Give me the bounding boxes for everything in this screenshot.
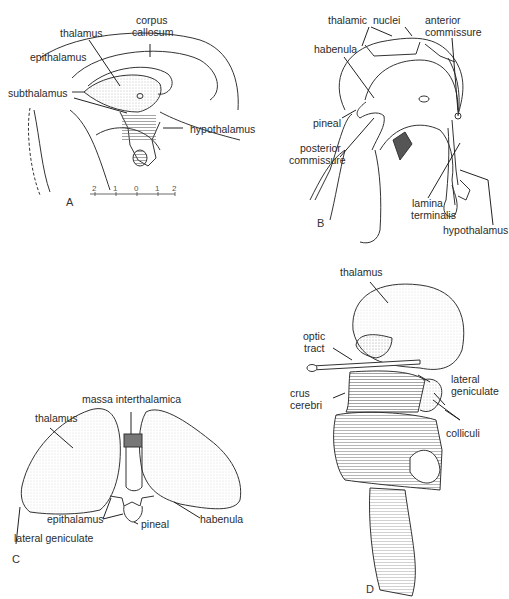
label-lamina-terminalis-line2: terminalis <box>411 209 456 221</box>
label-thalamus-a: thalamus <box>60 27 103 39</box>
label-lateral-geniculate-d-line1: lateral <box>451 373 480 385</box>
label-thalamus-d: thalamus <box>340 266 383 278</box>
label-colliculi: colliculi <box>446 427 480 439</box>
scale-tick: 2 <box>172 184 176 193</box>
label-lateral-geniculate-c: lateral geniculate <box>14 532 93 544</box>
label-posterior-commissure-line2: commissure <box>289 154 346 166</box>
label-epithalamus-c: epithalamus <box>47 513 104 525</box>
label-lateral-geniculate-d-line2: geniculate <box>451 385 499 397</box>
scale-tick: 2 <box>92 184 96 193</box>
label-habenula-c: habenula <box>200 513 243 525</box>
label-anterior-commissure-line1: anterior <box>425 14 461 26</box>
scale-bar <box>90 192 175 196</box>
label-epithalamus-a: epithalamus <box>30 51 87 63</box>
label-subthalamus: subthalamus <box>8 87 68 99</box>
scale-tick: 0 <box>134 184 138 193</box>
label-massa-interthalamica: massa interthalamica <box>82 393 181 405</box>
label-optic-tract-line2: tract <box>304 342 324 354</box>
panel-letter-a: A <box>66 196 73 208</box>
label-corpus-callosum-line2: callosum <box>132 26 173 38</box>
label-optic-tract-line1: optic <box>303 330 325 342</box>
panel-letter-b: B <box>317 217 324 229</box>
label-anterior-commissure-line2: commissure <box>425 26 482 38</box>
label-thalamus-c: thalamus <box>35 412 78 424</box>
label-crus-cerebri-line2: cerebri <box>290 399 322 411</box>
label-hypothalamus-b: hypothalamus <box>443 224 508 236</box>
label-hypothalamus-a: hypothalamus <box>190 123 255 135</box>
panel-letter-c: C <box>12 553 20 565</box>
scale-tick: 1 <box>113 184 117 193</box>
label-crus-cerebri-line1: crus <box>290 387 310 399</box>
panel-letter-d: D <box>366 583 374 595</box>
diagram-artwork <box>0 0 509 599</box>
label-pineal-c: pineal <box>141 518 169 530</box>
label-thalamic-nuclei: thalamic nuclei <box>328 14 400 26</box>
panel-d-drawing <box>307 284 464 596</box>
label-lamina-terminalis-line1: lamina <box>412 197 443 209</box>
label-corpus-callosum-line1: corpus <box>136 14 168 26</box>
label-posterior-commissure-line1: posterior <box>300 142 341 154</box>
label-habenula-b: habenula <box>314 43 357 55</box>
label-pineal-b: pineal <box>313 117 341 129</box>
scale-tick: 1 <box>155 184 159 193</box>
